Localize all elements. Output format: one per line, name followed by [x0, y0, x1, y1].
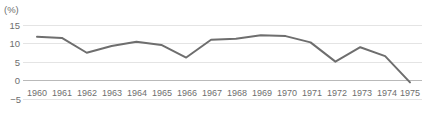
x-tick-label-1969: 1969: [252, 88, 272, 98]
x-tick-label-1965: 1965: [152, 88, 172, 98]
x-tick-label-1973: 1973: [352, 88, 372, 98]
y-tick-label-10: 10: [9, 38, 20, 49]
data-series-line: [37, 35, 410, 82]
x-tick-label-1961: 1961: [52, 88, 72, 98]
x-tick-label-1968: 1968: [227, 88, 247, 98]
x-tick-label-1972: 1972: [327, 88, 347, 98]
x-tick-label-1960: 1960: [27, 88, 47, 98]
x-tick-label-1970: 1970: [277, 88, 297, 98]
y-axis-unit-label: (%): [4, 4, 19, 15]
line-chart-panel: (%) 15 10 5 0 −5 1960 1961 1962 1963 196…: [0, 0, 422, 123]
x-tick-label-1975: 1975: [400, 88, 420, 98]
x-axis-ticks: 1960 1961 1962 1963 1964 1965 1966 1967 …: [27, 88, 420, 98]
y-tick-label-5: 5: [15, 57, 20, 68]
chart-canvas: (%) 15 10 5 0 −5 1960 1961 1962 1963 196…: [0, 0, 422, 123]
y-tick-label-minus5: −5: [10, 94, 21, 105]
x-tick-label-1971: 1971: [302, 88, 322, 98]
x-tick-label-1964: 1964: [127, 88, 147, 98]
y-axis-ticks: 15 10 5 0 −5: [9, 20, 21, 105]
x-tick-label-1963: 1963: [102, 88, 122, 98]
x-tick-label-1962: 1962: [77, 88, 97, 98]
x-tick-label-1967: 1967: [202, 88, 222, 98]
x-tick-label-1974: 1974: [377, 88, 397, 98]
x-tick-label-1966: 1966: [177, 88, 197, 98]
y-tick-label-0: 0: [15, 75, 20, 86]
y-tick-label-15: 15: [9, 20, 20, 31]
